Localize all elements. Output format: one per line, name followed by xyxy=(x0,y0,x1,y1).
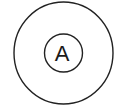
concentric-circles-diagram: A xyxy=(0,0,121,111)
inner-circle-label: A xyxy=(55,41,70,66)
